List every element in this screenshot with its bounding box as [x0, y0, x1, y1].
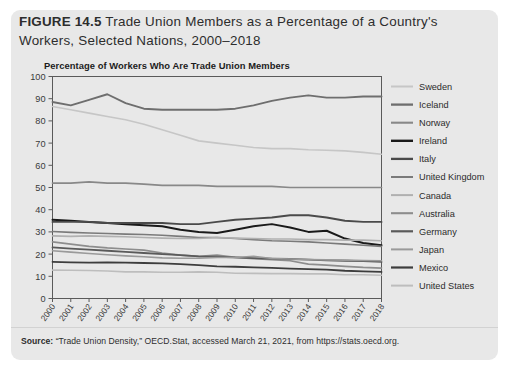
legend-label-canada: Canada: [419, 191, 452, 201]
x-axis-tick-label: 2014: [294, 302, 313, 323]
x-axis-tick-label: 2013: [276, 302, 295, 323]
x-axis-tick-label: 2009: [203, 302, 222, 323]
series-line-canada: [53, 236, 382, 241]
x-axis-tick-label: 2004: [112, 302, 131, 323]
series-line-iceland: [53, 94, 382, 110]
x-axis-tick-label: 2003: [93, 302, 112, 323]
chart-series-lines: [53, 94, 382, 275]
legend-label-norway: Norway: [419, 118, 451, 128]
x-axis-tick-label: 2005: [130, 302, 149, 323]
x-axis-ticks: 2000200120022003200420052006200720082009…: [38, 299, 386, 323]
x-axis-tick-label: 2011: [240, 302, 259, 323]
x-axis-tick-label: 2016: [331, 302, 350, 323]
series-line-norway: [53, 182, 382, 188]
series-line-italy: [53, 215, 382, 224]
line-chart: 0102030405060708090100 20002001200220032…: [0, 0, 506, 368]
y-axis-tick-label: 20: [35, 250, 45, 260]
legend-label-australia: Australia: [419, 209, 456, 219]
legend-label-united-states: United States: [419, 281, 475, 291]
chart-legend: SwedenIcelandNorwayIrelandItalyUnited Ki…: [391, 82, 485, 291]
legend-label-mexico: Mexico: [419, 263, 448, 273]
source-label: Source:: [21, 336, 53, 346]
x-axis-tick-label: 2002: [75, 302, 94, 323]
y-axis-tick-label: 90: [35, 94, 45, 104]
legend-label-sweden: Sweden: [419, 82, 452, 92]
x-axis-tick-label: 2018: [367, 302, 386, 323]
legend-label-ireland: Ireland: [419, 136, 447, 146]
x-axis-tick-label: 2017: [349, 302, 368, 323]
y-axis-tick-label: 70: [35, 139, 45, 149]
y-axis-tick-label: 60: [35, 161, 45, 171]
x-axis-tick-label: 2001: [57, 302, 76, 323]
x-axis-tick-label: 2008: [185, 302, 204, 323]
source-note: Source: “Trade Union Density,” OECD.Stat…: [21, 336, 399, 346]
y-axis-tick-label: 30: [35, 227, 45, 237]
series-line-sweden: [53, 106, 382, 154]
x-axis-tick-label: 2012: [258, 302, 277, 323]
x-axis-tick-label: 2010: [221, 302, 240, 323]
source-text: “Trade Union Density,” OECD.Stat, access…: [53, 336, 399, 346]
x-axis-tick-label: 2006: [148, 302, 167, 323]
y-axis-tick-label: 50: [35, 183, 45, 193]
legend-label-italy: Italy: [419, 154, 436, 164]
y-axis-tick-label: 40: [35, 205, 45, 215]
x-axis-tick-label: 2000: [38, 302, 57, 323]
legend-label-japan: Japan: [419, 245, 444, 255]
y-axis-tick-label: 80: [35, 116, 45, 126]
y-axis-tick-label: 10: [35, 272, 45, 282]
y-axis-tick-label: 0: [40, 294, 45, 304]
legend-label-united-kingdom: United Kingdom: [419, 172, 485, 182]
x-axis-tick-label: 2015: [313, 302, 332, 323]
legend-label-iceland: Iceland: [419, 100, 449, 110]
y-axis-tick-label: 100: [30, 72, 45, 82]
legend-label-germany: Germany: [419, 227, 457, 237]
y-axis-ticks: 0102030405060708090100: [30, 72, 52, 304]
footer-divider: [11, 327, 498, 328]
x-axis-tick-label: 2007: [166, 302, 185, 323]
